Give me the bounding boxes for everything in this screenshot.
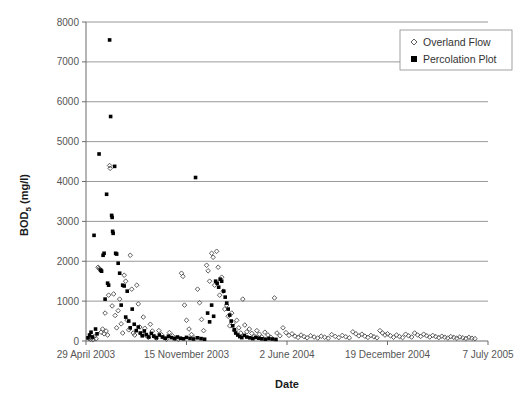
y-axis-title-base: BOD [18,211,30,236]
legend-label-overland-flow: Overland Flow [423,36,491,48]
data-point-percolation-plot [100,269,104,273]
data-point-percolation-plot [222,289,226,293]
data-point-percolation-plot [140,334,144,338]
data-point-percolation-plot [92,234,96,238]
data-point-percolation-plot [134,329,138,333]
data-point-percolation-plot [108,38,112,42]
data-point-percolation-plot [94,327,98,331]
data-point-percolation-plot [102,251,106,255]
data-point-percolation-plot [147,335,151,339]
data-point-percolation-plot [225,301,229,305]
scatter-chart: 010002000300040005000600070008000 29 Apr… [0,0,523,404]
data-point-percolation-plot [105,192,109,196]
y-tick-label: 7000 [57,56,80,67]
data-point-percolation-plot [267,337,271,341]
x-axis-title-text: Date [275,378,299,390]
x-axis-title: Date [275,378,299,390]
data-point-percolation-plot [231,324,235,328]
data-point-percolation-plot [185,336,189,340]
data-point-percolation-plot [229,319,233,323]
data-point-percolation-plot [132,322,136,326]
y-tick-label: 5000 [57,136,80,147]
data-point-percolation-plot [97,152,101,156]
data-point-percolation-plot [125,289,129,293]
data-point-percolation-plot [142,329,146,333]
data-point-percolation-plot [111,232,115,236]
y-tick-label: 3000 [57,216,80,227]
data-point-percolation-plot [196,336,200,340]
x-tick-label: 19 December 2004 [345,349,430,360]
data-point-percolation-plot [122,284,126,288]
data-point-percolation-plot [215,281,219,285]
data-point-percolation-plot [212,314,216,318]
data-point-percolation-plot [128,326,132,330]
data-point-percolation-plot [127,319,131,323]
data-point-percolation-plot [260,337,264,341]
data-point-percolation-plot [115,252,119,256]
y-tick-label: 2000 [57,256,80,267]
y-tick-label: 8000 [57,17,80,28]
x-tick-label: 2 June 2004 [259,349,314,360]
data-point-percolation-plot [89,330,93,334]
x-tick-label: 29 April 2003 [57,349,116,360]
y-axis-title-unit: (mg/l) [18,174,30,207]
data-point-percolation-plot [208,320,212,324]
data-point-percolation-plot [274,338,278,342]
legend-item-percolation-plot[interactable]: Percolation Plot [411,53,497,65]
y-tick-label: 4000 [57,176,80,187]
data-point-percolation-plot [264,337,268,341]
data-point-percolation-plot [194,176,198,180]
data-point-percolation-plot [109,115,113,119]
data-point-percolation-plot [223,295,227,299]
data-point-percolation-plot [103,297,107,301]
data-point-percolation-plot [192,337,196,341]
y-tick-label: 0 [73,336,79,347]
data-point-percolation-plot [271,337,275,341]
data-point-percolation-plot [232,328,236,332]
data-point-percolation-plot [199,337,203,341]
data-point-percolation-plot [203,337,207,341]
data-point-percolation-plot [228,313,232,317]
data-point-percolation-plot [110,216,114,220]
y-tick-label: 1000 [57,296,80,307]
data-point-percolation-plot [136,325,140,329]
data-point-percolation-plot [217,285,221,289]
data-point-percolation-plot [188,337,192,341]
data-point-percolation-plot [116,261,120,265]
y-tick-labels: 010002000300040005000600070008000 [57,17,80,347]
y-tick-label: 6000 [57,96,80,107]
data-point-percolation-plot [206,311,210,315]
data-point-percolation-plot [95,332,99,336]
data-point-percolation-plot [124,315,128,319]
data-point-percolation-plot [210,303,214,307]
data-point-percolation-plot [220,279,224,283]
legend: Overland Flow Percolation Plot [400,30,512,70]
data-point-percolation-plot [107,283,111,287]
legend-item-overland-flow[interactable]: Overland Flow [411,36,491,48]
data-point-percolation-plot [130,307,134,311]
data-point-percolation-plot [119,303,123,307]
data-point-percolation-plot [226,307,230,311]
x-tick-label: 15 November 2003 [144,349,229,360]
data-point-percolation-plot [118,271,122,275]
filled-square-icon [411,56,417,62]
data-point-percolation-plot [91,335,95,339]
x-tick-label: 7 July 2005 [462,349,514,360]
chart-container: 010002000300040005000600070008000 29 Apr… [0,0,523,404]
data-point-percolation-plot [113,165,117,169]
legend-label-percolation-plot: Percolation Plot [423,53,497,65]
